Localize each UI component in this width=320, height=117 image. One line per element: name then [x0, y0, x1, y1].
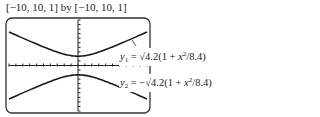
y2-equation-label: y2 = −√4.2(1 + x2/8.4)	[119, 74, 213, 92]
y1-equation-label: y1 = √4.2(1 + x2/8.4)	[119, 48, 207, 66]
